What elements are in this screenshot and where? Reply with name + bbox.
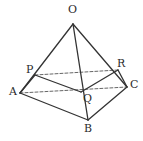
- edge-B-C: [88, 87, 127, 120]
- edge-A-C: [20, 87, 127, 93]
- vertex-label-C: C: [130, 79, 138, 90]
- vertex-label-Q: Q: [83, 93, 92, 104]
- vertex-label-R: R: [117, 58, 125, 69]
- visible-edges-group: [20, 24, 127, 120]
- edge-A-B: [20, 93, 88, 120]
- vertex-label-O: O: [68, 4, 77, 15]
- vertex-label-B: B: [84, 123, 92, 134]
- vertex-label-A: A: [9, 86, 17, 97]
- edge-P-Q: [35, 75, 81, 92]
- vertex-label-P: P: [26, 64, 33, 75]
- edge-P-R: [35, 70, 118, 75]
- geometry-figure: OPRACQB: [0, 0, 143, 141]
- pyramid-diagram: [0, 0, 143, 141]
- edge-P-A: [20, 75, 35, 93]
